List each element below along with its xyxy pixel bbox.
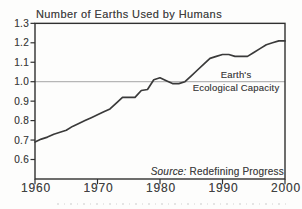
x-tick-label: 1960 <box>16 182 56 195</box>
x-tick-label: 2000 <box>266 182 302 195</box>
annotation-line-2: Ecological Capacity <box>175 82 297 95</box>
annotation-line-1: Earth's <box>175 69 297 82</box>
x-tick-label: 1970 <box>79 182 119 195</box>
ecological-capacity-annotation: Earth's Ecological Capacity <box>175 69 297 94</box>
earths-used-chart-figure: Number of Earths Used by Humans 1.31.21.… <box>0 0 302 209</box>
x-tick-label: 1980 <box>141 182 181 195</box>
source-note: Source: Redefining Progress <box>151 166 284 178</box>
source-label: Source: <box>151 166 187 177</box>
x-tick-label: 1990 <box>204 182 244 195</box>
source-text: Redefining Progress <box>187 166 284 177</box>
cropped-caption-remnant <box>57 203 291 205</box>
